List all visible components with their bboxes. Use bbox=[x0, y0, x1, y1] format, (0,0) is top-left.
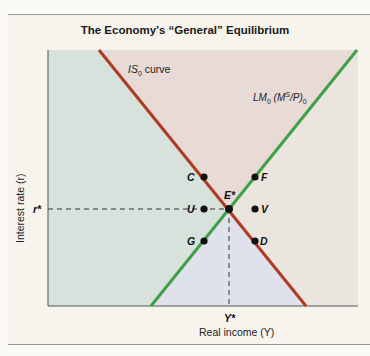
label-c: C bbox=[187, 171, 195, 183]
y-axis-title: Interest rate (r) bbox=[14, 174, 26, 243]
point-e bbox=[225, 205, 233, 213]
is-curve-label: IS0 curve bbox=[128, 63, 171, 77]
label-f: F bbox=[261, 171, 268, 183]
x-axis-title: Real income (Y) bbox=[199, 326, 274, 338]
y-star-label: Y* bbox=[224, 312, 236, 324]
label-g: G bbox=[187, 235, 195, 247]
point-v bbox=[251, 205, 258, 212]
label-v: V bbox=[261, 203, 269, 215]
label-d: D bbox=[260, 235, 268, 247]
label-e: E* bbox=[224, 189, 236, 201]
islm-diagram: C F U E* V G D r* Y* IS0 curve LM0 (MS/P… bbox=[0, 0, 370, 356]
point-d bbox=[251, 237, 258, 244]
lm-curve-label: LM0 (MS/P)0 bbox=[253, 91, 307, 105]
r-star-label: r* bbox=[33, 203, 42, 215]
label-u: U bbox=[187, 203, 195, 215]
point-g bbox=[200, 237, 207, 244]
point-u bbox=[200, 205, 207, 212]
point-c bbox=[200, 173, 207, 180]
point-f bbox=[251, 173, 258, 180]
